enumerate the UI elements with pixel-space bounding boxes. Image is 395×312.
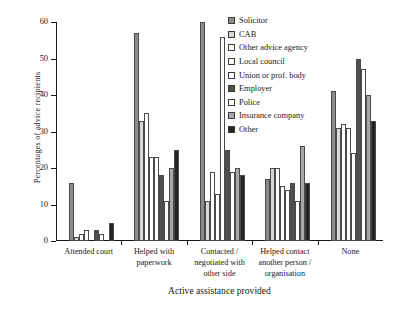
- bar: [371, 121, 376, 241]
- bar: [109, 223, 114, 241]
- legend-item-label: Employer: [239, 84, 272, 93]
- y-tick-mark: [51, 168, 56, 169]
- legend-item[interactable]: Union or prof. body: [228, 68, 308, 82]
- y-tick-label: 20: [40, 164, 48, 172]
- legend-swatch-icon: [228, 85, 235, 92]
- legend-item-label: Police: [239, 98, 260, 107]
- bar: [99, 234, 104, 241]
- legend-item[interactable]: CAB: [228, 28, 308, 42]
- x-axis-title: Active assistance provided: [56, 285, 383, 296]
- legend-swatch-icon: [228, 31, 235, 38]
- legend-swatch-icon: [228, 126, 235, 133]
- bar: [69, 183, 74, 241]
- y-tick-label: 10: [40, 200, 48, 208]
- legend-item-label: Insurance company: [239, 111, 304, 120]
- x-category-label: None: [310, 246, 391, 257]
- legend-item-label: Union or prof. body: [239, 71, 306, 80]
- legend-swatch-icon: [228, 72, 235, 79]
- y-tick-label: 60: [40, 18, 48, 26]
- x-tick-mark: [318, 241, 319, 245]
- plot-area: 0102030405060: [56, 22, 383, 241]
- bar-chart: Percentages of advice recipients 0102030…: [0, 0, 395, 312]
- bar: [240, 175, 245, 241]
- legend-item-label: Other: [239, 125, 258, 134]
- legend-item[interactable]: Insurance company: [228, 109, 308, 123]
- legend-item-label: Other advice agency: [239, 43, 308, 52]
- bar: [84, 230, 89, 241]
- legend-item[interactable]: Solicitor: [228, 14, 308, 28]
- legend-swatch-icon: [228, 99, 235, 106]
- x-tick-mark: [187, 241, 188, 245]
- y-tick-mark: [51, 205, 56, 206]
- bar: [305, 183, 310, 241]
- bar: [174, 150, 179, 241]
- legend-swatch-icon: [228, 17, 235, 24]
- legend-item-label: Solicitor: [239, 16, 268, 25]
- bar-group: [69, 22, 114, 241]
- y-tick-mark: [51, 59, 56, 60]
- legend-item-label: CAB: [239, 30, 256, 39]
- bar-group: [331, 22, 376, 241]
- y-tick-mark: [51, 95, 56, 96]
- y-tick-label: 30: [40, 127, 48, 135]
- legend: SolicitorCABOther advice agencyLocal cou…: [228, 14, 308, 136]
- legend-item[interactable]: Employer: [228, 82, 308, 96]
- y-tick-mark: [51, 22, 56, 23]
- legend-item[interactable]: Local council: [228, 55, 308, 69]
- x-tick-mark: [252, 241, 253, 245]
- y-tick-mark: [51, 132, 56, 133]
- y-tick-label: 50: [40, 54, 48, 62]
- y-tick-label: 40: [40, 91, 48, 99]
- legend-swatch-icon: [228, 44, 235, 51]
- bar-group: [134, 22, 179, 241]
- y-tick-mark: [51, 241, 56, 242]
- x-tick-mark: [121, 241, 122, 245]
- legend-item-label: Local council: [239, 57, 285, 66]
- legend-item[interactable]: Other advice agency: [228, 41, 308, 55]
- legend-item[interactable]: Police: [228, 96, 308, 110]
- legend-swatch-icon: [228, 112, 235, 119]
- y-axis-line: [56, 22, 57, 241]
- legend-swatch-icon: [228, 58, 235, 65]
- legend-item[interactable]: Other: [228, 123, 308, 137]
- y-tick-label: 0: [44, 237, 48, 245]
